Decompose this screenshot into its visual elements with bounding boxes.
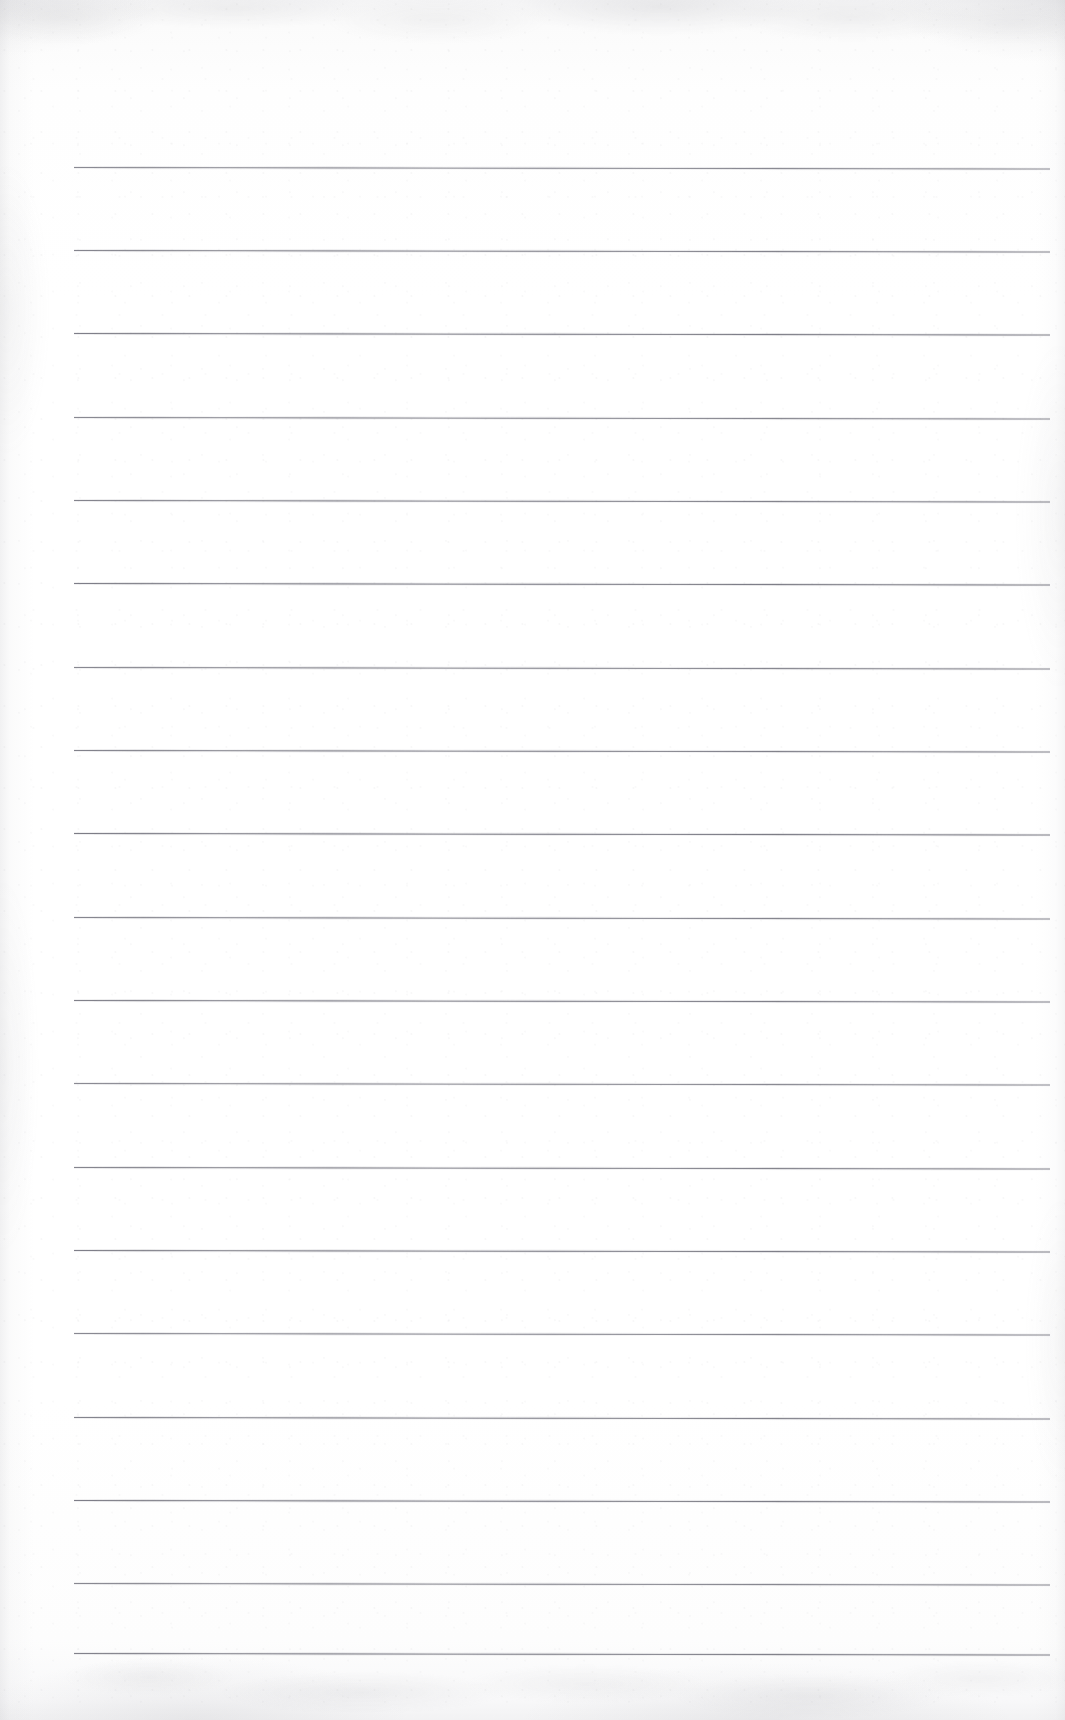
ruled-line	[74, 917, 1050, 919]
ruled-line	[74, 1083, 1050, 1085]
ruled-line	[74, 417, 1050, 419]
ruled-line	[74, 1417, 1050, 1419]
ruled-line	[74, 1333, 1050, 1335]
ruled-line	[74, 1167, 1050, 1169]
scanned-page	[0, 0, 1065, 1720]
ruled-line	[74, 1583, 1050, 1585]
ruled-line	[74, 167, 1050, 169]
ruled-line	[74, 500, 1050, 502]
ruled-line	[74, 250, 1050, 252]
ruled-line	[74, 1653, 1050, 1655]
ruled-lines-group	[0, 0, 1065, 1720]
ruled-line	[74, 750, 1050, 752]
ruled-line	[74, 1250, 1050, 1252]
ruled-line	[74, 333, 1050, 335]
ruled-line	[74, 1000, 1050, 1002]
ruled-line	[74, 583, 1050, 585]
ruled-line	[74, 667, 1050, 669]
ruled-line	[74, 1500, 1050, 1502]
ruled-line	[74, 833, 1050, 835]
